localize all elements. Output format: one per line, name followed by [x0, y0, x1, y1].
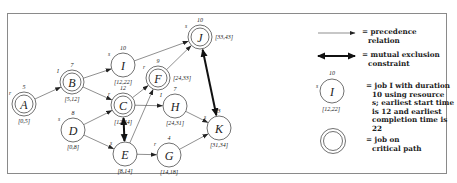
job-node-H: H7I[24,31]	[159, 86, 187, 127]
job-letter: C	[119, 99, 128, 113]
job-times: [24,33]	[173, 75, 192, 82]
precedence-edge-D-C	[84, 111, 112, 125]
job-times: [5,12]	[64, 96, 80, 103]
job-letter: H	[170, 100, 181, 114]
job-resource: s	[185, 23, 187, 29]
job-times: [33,43]	[215, 34, 234, 41]
job-duration: 3	[217, 108, 221, 114]
job-duration: 8	[72, 110, 75, 116]
job-resource: r	[108, 91, 111, 97]
nodes-layer: A5r[0,5]B7I[5,12]D8s[0,8]I10s[12,22]C12r…	[9, 17, 234, 176]
job-letter: G	[165, 149, 174, 163]
job-node-F: F9r[24,33]	[143, 58, 192, 90]
precedence-edge-G-K	[180, 134, 208, 149]
legend-node-times: [12,22]	[322, 106, 341, 113]
precedence-edge-E-F	[130, 89, 153, 143]
job-node-C: C12r[12,24]	[108, 85, 135, 126]
job-duration: 9	[157, 58, 160, 64]
job-resource: s	[204, 114, 206, 120]
job-resource: I	[159, 92, 163, 98]
job-times: [0,8]	[67, 144, 80, 151]
job-resource: r	[154, 141, 157, 147]
job-duration: 5	[23, 84, 26, 90]
job-duration: 7	[71, 62, 75, 68]
precedence-edge-I-J	[134, 41, 188, 61]
job-letter: B	[68, 76, 76, 90]
job-times: [8,14]	[117, 168, 133, 175]
job-times: [24,31]	[166, 120, 185, 127]
job-resource: r	[143, 64, 146, 70]
job-node-B: B7I[5,12]	[56, 62, 84, 103]
legend-critical-node	[321, 129, 346, 154]
job-duration: 12	[120, 85, 126, 91]
job-times: [0,5]	[18, 118, 31, 125]
legend-node-letter: I	[329, 85, 335, 99]
legend-precedence-label: = precedence relation	[362, 28, 417, 45]
job-resource: s	[108, 51, 110, 57]
job-node-D: D8s[0,8]	[58, 110, 85, 151]
precedence-edge-B-I	[83, 69, 111, 78]
legend-mutex-label: = mutual exclusion constraint	[362, 51, 440, 68]
job-letter: J	[197, 31, 203, 45]
job-duration: 7	[174, 86, 178, 92]
job-duration: 10	[197, 17, 203, 23]
legend-job-description: = job I with duration 10 using resource …	[366, 82, 457, 134]
job-duration: 4	[168, 135, 171, 141]
job-duration: 6	[124, 134, 127, 140]
job-resource: s	[110, 140, 112, 146]
job-node-I: I10s[12,22]	[108, 45, 135, 86]
job-node-G: G4r[14,18]	[154, 135, 181, 176]
mutex-edge-J-K	[203, 50, 217, 116]
job-times: [14,18]	[160, 169, 179, 176]
legend-critical-label: = job on critical path	[366, 136, 421, 153]
job-node-J: J10s[33,43]	[185, 17, 234, 49]
job-letter: D	[68, 124, 78, 138]
legend: I 10 s [12,22]	[316, 33, 355, 154]
precedence-edge-C-H	[135, 105, 163, 106]
job-times: [31,34]	[210, 142, 229, 149]
legend-node-resource: s	[316, 83, 318, 89]
job-times: [12,24]	[114, 119, 133, 126]
job-letter: K	[214, 122, 224, 136]
precedence-edge-F-J	[167, 46, 191, 70]
job-resource: r	[9, 90, 12, 96]
legend-node-duration: 10	[329, 70, 335, 76]
job-node-A: A5r[0,5]	[9, 84, 36, 125]
legend-example-node: I 10 s [12,22]	[316, 70, 344, 113]
precedence-edge-A-B	[35, 87, 61, 99]
precedence-edge-C-F	[133, 86, 149, 98]
job-duration: 10	[120, 45, 126, 51]
job-letter: A	[19, 98, 28, 112]
job-letter: F	[153, 72, 162, 86]
job-resource: s	[58, 116, 60, 122]
job-resource: I	[56, 68, 60, 74]
job-node-K: K3s[31,34]	[204, 108, 231, 149]
job-letter: E	[120, 148, 129, 162]
